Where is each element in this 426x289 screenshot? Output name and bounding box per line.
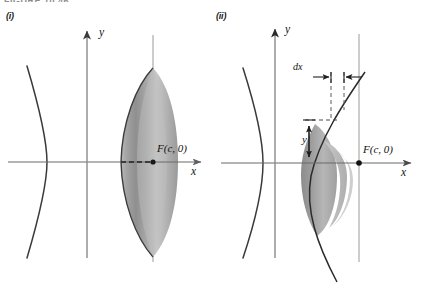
y-axis-label-ii: y bbox=[285, 24, 290, 36]
figure-root: FIGURE 10.46 (i) bbox=[0, 0, 426, 289]
dx-label-ii: dx bbox=[293, 62, 302, 72]
panel-i: (i) bbox=[0, 0, 213, 289]
focus-point-i bbox=[150, 159, 155, 164]
focus-point-label-ii: F(c, 0) bbox=[363, 144, 393, 155]
x-axis-label-i: x bbox=[191, 166, 196, 178]
x-axis-label-ii: x bbox=[401, 167, 406, 179]
panel-ii: (ii) bbox=[213, 0, 426, 289]
y-height-label-ii: y bbox=[302, 134, 307, 145]
y-axis-label-i: y bbox=[99, 27, 104, 39]
focus-point-label-i: F(c, 0) bbox=[157, 143, 187, 154]
focus-point-ii bbox=[356, 160, 362, 166]
panel-ii-graphic bbox=[213, 0, 426, 289]
